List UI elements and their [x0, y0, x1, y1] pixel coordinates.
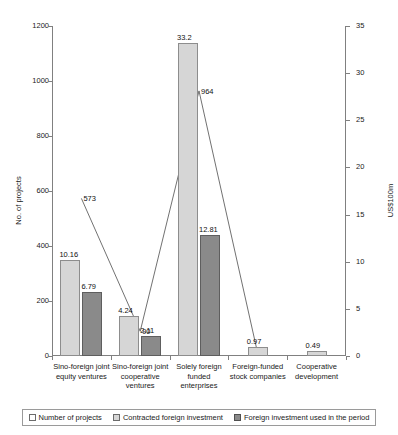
- legend-swatch-light-icon: [113, 414, 120, 421]
- y-axis-right-tick-label: 5: [356, 305, 360, 313]
- y-axis-right-tick-mark: [346, 262, 350, 263]
- y-axis-right-title: US$100m: [386, 161, 395, 241]
- bar-foreign-investment-used: [82, 292, 102, 356]
- x-axis-category-label-3: Foreign-funded stock companies: [228, 362, 287, 404]
- bar-value-label: 33.2: [177, 33, 192, 42]
- bar-contracted-foreign-investment: [119, 316, 139, 356]
- bar-contracted-foreign-investment: [307, 351, 327, 356]
- chart-figure: No. of projects US$100m 0200400600800100…: [0, 0, 398, 435]
- y-axis-right-tick-label: 20: [356, 163, 364, 171]
- y-axis-right-tick-mark: [346, 120, 350, 121]
- y-axis-right-tick-mark: [346, 309, 350, 310]
- y-axis-right-tick-mark: [346, 26, 350, 27]
- y-axis-right-tick-mark: [346, 167, 350, 168]
- y-axis-right-tick-label: 15: [356, 211, 364, 219]
- bar-contracted-foreign-investment: [60, 260, 80, 356]
- x-axis-tick-mark: [287, 356, 288, 360]
- x-axis-category-label-0: Sino-foreign joint equity ventures: [52, 362, 111, 404]
- line-path-number-of-projects: [81, 91, 257, 354]
- legend-label-0: Number of projects: [39, 413, 102, 422]
- bar-contracted-foreign-investment: [178, 43, 198, 356]
- legend-item-contracted-foreign-investment: Contracted foreign investment: [113, 413, 223, 422]
- y-axis-right-tick-label: 0: [356, 352, 360, 360]
- bar-value-label: 12.81: [199, 225, 218, 234]
- bar-value-label: 0.49: [306, 341, 321, 350]
- x-axis-tick-mark: [228, 356, 229, 360]
- plot-area: 10.166.794.242.1133.212.810.970.49573909…: [52, 26, 346, 356]
- legend-label-1: Contracted foreign investment: [123, 413, 223, 422]
- x-axis-tick-mark: [111, 356, 112, 360]
- legend-item-number-of-projects: Number of projects: [29, 413, 102, 422]
- bar-value-label: 0.97: [247, 337, 262, 346]
- y-axis-right-tick-label: 35: [356, 22, 364, 30]
- y-axis-left-tick-label: 1200: [32, 22, 49, 30]
- y-axis-right-tick-mark: [346, 73, 350, 74]
- line-value-label: 90: [142, 327, 150, 336]
- chart-legend: Number of projects Contracted foreign in…: [22, 409, 376, 426]
- line-value-label: 573: [83, 194, 96, 203]
- x-axis-tick-mark: [346, 356, 347, 360]
- line-value-label: 964: [201, 87, 214, 96]
- bar-value-label: 6.79: [81, 282, 96, 291]
- y-axis-right-tick-label: 10: [356, 258, 364, 266]
- bar-value-label: 10.16: [59, 250, 78, 259]
- bar-foreign-investment-used: [200, 235, 220, 356]
- legend-swatch-dark-icon: [234, 414, 241, 421]
- y-axis-right-tick-label: 25: [356, 116, 364, 124]
- x-axis-tick-mark: [52, 356, 53, 360]
- x-axis-category-label-1: Sino-foreign joint cooperative ventures: [111, 362, 170, 404]
- x-axis-category-label-2: Solely foreign funded enterprises: [170, 362, 229, 404]
- bar-value-label: 4.24: [118, 306, 133, 315]
- y-axis-left-tick-label: 1000: [32, 77, 49, 85]
- x-axis-category-labels: Sino-foreign joint equity venturesSino-f…: [52, 362, 346, 404]
- bar-contracted-foreign-investment: [248, 347, 268, 356]
- legend-item-foreign-investment-used: Foreign investment used in the period: [234, 413, 370, 422]
- x-axis-tick-mark: [170, 356, 171, 360]
- legend-swatch-line-icon: [29, 414, 36, 421]
- y-axis-right-tick-mark: [346, 215, 350, 216]
- x-axis-category-label-4: Cooperative development: [287, 362, 346, 404]
- legend-label-2: Foreign investment used in the period: [244, 413, 370, 422]
- bar-foreign-investment-used: [141, 336, 161, 356]
- y-axis-right-tick-label: 30: [356, 69, 364, 77]
- y-axis-left-title: No. of projects: [14, 161, 23, 241]
